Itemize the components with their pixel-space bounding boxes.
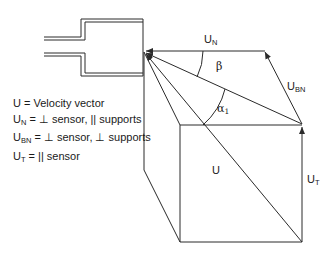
legend-row-ut: UT = || sensor [13,149,151,168]
u-label: U [212,164,220,176]
legend-row-ubn: UBN = ⊥ sensor, ⊥ supports [13,130,151,149]
u-vector [146,54,302,242]
legend-text: = Velocity vector [21,97,104,109]
legend-subscript: BN [21,136,31,145]
legend-row-u: U = Velocity vector [13,96,151,112]
label-base: U [212,164,220,176]
legend-text: = ⊥ sensor, || supports [26,113,141,125]
legend-symbol: U [13,97,21,109]
label-subscript: BN [295,85,305,94]
label-subscript: 1 [224,107,229,116]
alpha-label: α1 [217,102,229,116]
beta-label: β [216,60,222,73]
ubn-label: UBN [287,80,305,94]
legend-row-un: UN = ⊥ sensor, || supports [13,112,151,131]
label-subscript: T [315,178,320,187]
vectors [146,51,302,242]
sensor-probe [44,19,143,76]
legend-symbol: U [13,113,21,125]
legend: U = Velocity vector UN = ⊥ sensor, || su… [13,96,151,167]
label-base: U [307,173,315,185]
legend-text: = || sensor [26,150,80,162]
label-subscript: N [212,38,217,47]
back-bottom-edge [144,170,180,242]
label-base: β [216,60,222,73]
legend-symbol: U [13,150,21,162]
un-label: UN [204,33,217,47]
label-base: U [287,80,295,92]
beta-arc [197,51,203,77]
legend-symbol: U [13,131,21,143]
legend-text: = ⊥ sensor, ⊥ supports [31,131,150,143]
ut-label: UT [307,173,320,187]
label-base: U [204,33,212,45]
